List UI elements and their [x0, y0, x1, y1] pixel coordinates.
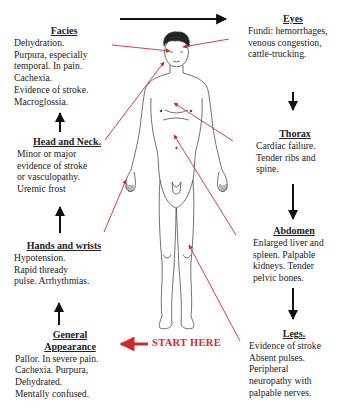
pointer-thorax: [174, 103, 233, 141]
legs-line: Peripheral: [249, 363, 347, 375]
general-appearance-title: General: [15, 329, 125, 341]
eyes-line: cattle-trucking.: [248, 48, 347, 60]
general-appearance-line: Cachexia. Purpura,: [15, 364, 125, 376]
start-here-label: START HERE: [152, 337, 221, 348]
legs-line: palpable nerves.: [249, 387, 347, 399]
legs-block: Legs. Evidence of stroke Absent pulses. …: [249, 328, 347, 399]
head-neck-block: Head and Neck. Minor or major evidence o…: [17, 136, 117, 195]
abdomen-line: spleen. Palpable: [253, 249, 347, 261]
pointer-legs: [189, 245, 240, 341]
facies-line: Evidence of stroke.: [14, 84, 114, 96]
thorax-line: spine.: [256, 163, 346, 175]
facies-line: Purpura, especially: [14, 49, 114, 61]
facies-line: Cachexia.: [14, 72, 114, 84]
human-body-outline-icon: [126, 32, 228, 329]
head-neck-line: evidence of stroke: [17, 160, 117, 172]
general-appearance-line: Pallor. In severe pain.: [15, 353, 125, 365]
legs-title: Legs.: [249, 328, 339, 340]
hands-wrists-line: Rapid thready: [14, 264, 114, 276]
hands-wrists-block: Hands and wrists Hypotension. Rapid thre…: [14, 240, 114, 287]
eyes-block: Eyes Fundi: hemorrhages, venous congesti…: [248, 13, 347, 60]
abdomen-line: Enlarged liver and: [253, 237, 347, 249]
thorax-block: Thorax Cardiac failure. Tender ribs and …: [256, 128, 346, 175]
hands-wrists-title: Hands and wrists: [14, 240, 114, 252]
thorax-line: Cardiac failure.: [256, 140, 346, 152]
thorax-line: Tender ribs and: [256, 152, 346, 164]
legs-line: neuropathy with: [249, 375, 347, 387]
facies-line: Macroglossia.: [14, 96, 114, 108]
abdomen-line: pelvic bones.: [253, 272, 347, 284]
head-neck-line: or vasculopathy.: [17, 171, 117, 183]
facies-title: Facies: [14, 25, 114, 37]
pointer-facies: [112, 45, 170, 51]
abdomen-block: Abdomen Enlarged liver and spleen. Palpa…: [253, 225, 347, 284]
facies-block: Facies Dehydration. Purpura, especially …: [14, 25, 114, 108]
general-appearance-title: Appearance: [15, 341, 125, 353]
hands-wrists-line: Hypotension.: [14, 252, 114, 264]
head-neck-line: Minor or major: [17, 148, 117, 160]
general-appearance-block: General Appearance Pallor. In severe pai…: [15, 329, 125, 400]
eyes-line: Fundi: hemorrhages,: [248, 25, 347, 37]
abdomen-title: Abdomen: [253, 225, 335, 237]
legs-line: Evidence of stroke: [249, 340, 347, 352]
general-appearance-line: Mentally confused.: [15, 388, 125, 400]
pointer-eyes: [183, 39, 229, 47]
facies-line: Dehydration.: [14, 37, 114, 49]
eyes-title: Eyes: [248, 13, 338, 25]
general-appearance-line: Dehydrated.: [15, 376, 125, 388]
hands-wrists-line: pulse. Arrhythmias.: [14, 275, 114, 287]
head-neck-title: Head and Neck.: [17, 136, 117, 148]
abdomen-line: kidneys. Tender: [253, 260, 347, 272]
pointer-abdomen: [174, 135, 236, 235]
legs-line: Absent pulses.: [249, 352, 347, 364]
eyes-line: venous congestion,: [248, 37, 347, 49]
facies-line: temporal. In pain.: [14, 60, 114, 72]
thorax-title: Thorax: [256, 128, 334, 140]
head-neck-line: Uremic frost: [17, 183, 117, 195]
